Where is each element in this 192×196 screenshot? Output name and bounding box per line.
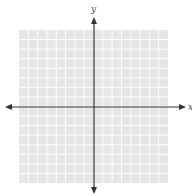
y-axis-label: y xyxy=(90,4,97,14)
coordinate-plane: x y xyxy=(0,0,192,196)
y-axis-up-arrow-icon xyxy=(91,17,97,24)
x-axis-left-arrow-icon xyxy=(5,104,12,110)
x-axis-label: x xyxy=(188,102,192,112)
y-axis-down-arrow-icon xyxy=(91,187,97,194)
x-axis-right-arrow-icon xyxy=(179,104,186,110)
